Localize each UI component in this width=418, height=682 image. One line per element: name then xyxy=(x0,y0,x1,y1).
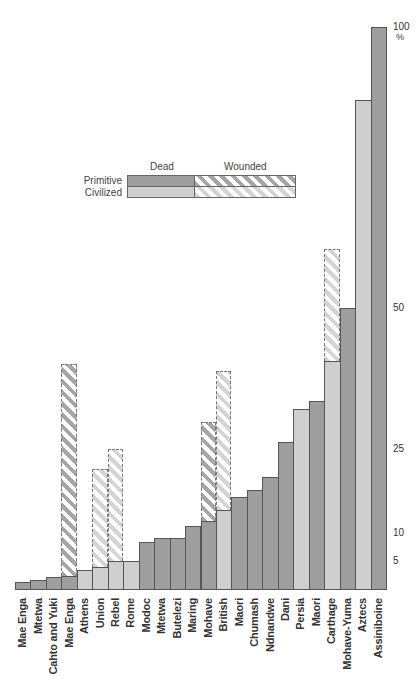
x-axis-label: Mohave-Yuma xyxy=(340,598,355,678)
y-tick-100: 100 xyxy=(393,21,410,32)
x-axis-label: Butelezi xyxy=(170,598,185,678)
dead-bar xyxy=(231,497,247,590)
dead-bar xyxy=(139,542,155,590)
wounded-segment xyxy=(92,469,107,567)
x-axis-label: Aztecs xyxy=(355,598,370,678)
dead-bar xyxy=(77,570,93,590)
dead-bar xyxy=(92,567,108,590)
x-axis-label: Mtetwa xyxy=(31,598,46,678)
dead-bar xyxy=(324,361,340,590)
x-axis-label: Maori xyxy=(232,598,247,678)
x-axis-label: British xyxy=(216,598,231,678)
y-axis-unit: % xyxy=(396,32,404,42)
dead-bar xyxy=(30,580,46,590)
dead-bar xyxy=(185,526,201,590)
dead-bar xyxy=(293,409,309,590)
dead-bar xyxy=(371,27,387,590)
x-axis-label: Dani xyxy=(278,598,293,678)
dead-bar xyxy=(216,510,232,590)
dead-bar xyxy=(278,442,294,590)
dead-bar xyxy=(201,521,217,590)
legend-dead-label: Dead xyxy=(150,161,174,172)
x-axis-label: Carthage xyxy=(324,598,339,678)
dead-bar xyxy=(340,308,356,590)
wounded-segment xyxy=(61,364,76,576)
wounded-segment xyxy=(201,422,216,521)
x-axis-label: Persia xyxy=(293,598,308,678)
wounded-segment xyxy=(108,449,123,561)
y-tick-10: 10 xyxy=(393,527,404,538)
legend-primitive-label: Primitive xyxy=(62,175,122,186)
wounded-segment xyxy=(216,371,231,510)
x-axis-label: Mohave xyxy=(201,598,216,678)
legend-wounded-label: Wounded xyxy=(224,161,267,172)
x-axis-label: Union xyxy=(93,598,108,678)
x-axis-label: Cahto and Yuki xyxy=(46,598,61,678)
wounded-segment xyxy=(324,249,339,361)
x-axis-label: Maori xyxy=(309,598,324,678)
dead-bar xyxy=(154,538,170,590)
dead-bar xyxy=(15,582,31,590)
dead-bar xyxy=(108,561,124,590)
x-axis-label: Chumash xyxy=(247,598,262,678)
x-axis-label: Mae Enga xyxy=(15,598,30,678)
x-axis-label: Mtetwa xyxy=(154,598,169,678)
y-tick-5: 5 xyxy=(393,555,399,566)
x-axis-label: Mae Enga xyxy=(62,598,77,678)
dead-bar xyxy=(170,538,186,590)
x-axis-label: Ndnandwe xyxy=(263,598,278,678)
y-tick-50: 50 xyxy=(393,302,404,313)
x-axis-label: Maring xyxy=(185,598,200,678)
legend-civilized-wounded-swatch xyxy=(194,186,296,198)
dead-bar xyxy=(247,490,263,590)
dead-bar xyxy=(46,577,62,590)
dead-bar xyxy=(309,401,325,590)
x-axis-label: Rome xyxy=(123,598,138,678)
dead-bar xyxy=(355,100,371,590)
legend-civilized-label: Civilized xyxy=(62,187,122,198)
dead-bar xyxy=(123,561,139,590)
x-axis-label: Modoc xyxy=(139,598,154,678)
casualty-bar-chart: Dead Wounded Primitive Civilized 100 % 5… xyxy=(0,0,418,682)
dead-bar xyxy=(262,477,278,590)
dead-bar xyxy=(61,576,77,590)
x-axis-label: Rebel xyxy=(108,598,123,678)
x-axis-label: Athens xyxy=(77,598,92,678)
y-tick-25: 25 xyxy=(393,443,404,454)
legend-civilized-dead-swatch xyxy=(127,186,195,198)
x-axis-label: Assiniboine xyxy=(371,598,386,678)
